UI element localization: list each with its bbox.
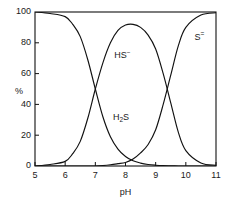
y-tick-label-100: 100 bbox=[16, 6, 31, 16]
speciation-chart-figure: 567891011 020406080100 pH % HS−H2SS= bbox=[0, 0, 233, 207]
x-tick-label-5: 5 bbox=[32, 170, 37, 180]
y-tick-label-20: 20 bbox=[21, 130, 31, 140]
x-tick-label-9: 9 bbox=[153, 170, 158, 180]
chart-canvas: 567891011 020406080100 pH % HS−H2SS= bbox=[0, 0, 233, 207]
x-tick-label-11: 11 bbox=[211, 170, 220, 180]
x-tick-label-8: 8 bbox=[123, 170, 128, 180]
y-tick-label-0: 0 bbox=[26, 160, 31, 170]
y-tick-label-60: 60 bbox=[21, 68, 31, 78]
x-tick-label-7: 7 bbox=[93, 170, 98, 180]
x-tick-label-10: 10 bbox=[181, 170, 191, 180]
x-axis-title: pH bbox=[120, 187, 132, 197]
x-tick-label-6: 6 bbox=[63, 170, 68, 180]
y-axis-title: % bbox=[15, 86, 23, 96]
y-tick-label-80: 80 bbox=[21, 37, 31, 47]
y-tick-label-40: 40 bbox=[21, 99, 31, 109]
